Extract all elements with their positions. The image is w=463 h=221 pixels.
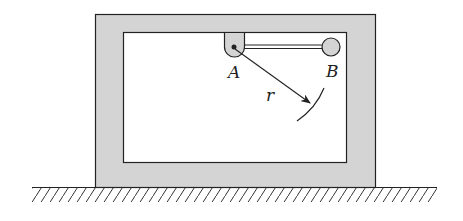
ground: [32, 188, 437, 203]
ball-B: [322, 38, 340, 56]
pivot-pin-icon: [232, 45, 237, 50]
diagram-canvas: A B r: [0, 0, 463, 221]
label-r: r: [266, 85, 275, 105]
ground-hatch: [32, 188, 437, 202]
label-B: B: [325, 61, 339, 81]
label-A: A: [226, 62, 240, 82]
pendulum-frame-diagram: A B r: [0, 0, 463, 221]
